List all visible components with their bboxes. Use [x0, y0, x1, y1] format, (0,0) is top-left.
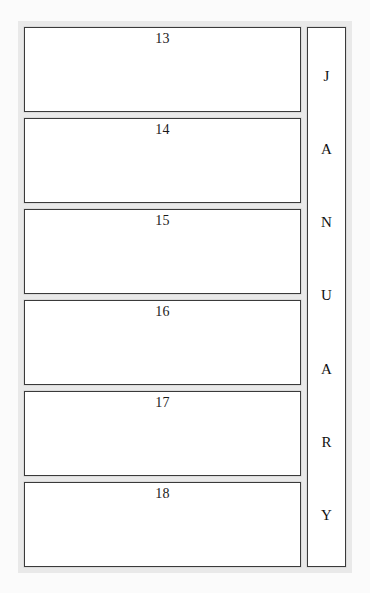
planner-page: 13 14 15 16 17 18	[18, 21, 352, 573]
day-number: 15	[25, 212, 300, 230]
day-number: 16	[25, 303, 300, 321]
day-writing-area[interactable]	[25, 141, 300, 202]
day-number: 18	[25, 485, 300, 503]
day-writing-area[interactable]	[25, 323, 300, 384]
day-number: 13	[25, 30, 300, 48]
day-number: 17	[25, 394, 300, 412]
day-cell-column: 13 14 15 16 17 18	[24, 27, 301, 567]
month-letter: J	[324, 69, 330, 84]
month-letter: R	[321, 435, 331, 450]
month-letter: U	[321, 288, 332, 303]
month-tab: J A N U A R Y	[307, 27, 346, 567]
month-letter: A	[321, 362, 332, 377]
day-cell[interactable]: 18	[24, 482, 301, 567]
day-writing-area[interactable]	[25, 414, 300, 475]
month-letter: A	[321, 142, 332, 157]
day-writing-area[interactable]	[25, 232, 300, 293]
day-writing-area[interactable]	[25, 505, 300, 566]
day-number: 14	[25, 121, 300, 139]
day-cell[interactable]: 13	[24, 27, 301, 112]
day-cell[interactable]: 14	[24, 118, 301, 203]
day-cell[interactable]: 16	[24, 300, 301, 385]
month-letter: Y	[321, 508, 332, 523]
day-cell[interactable]: 17	[24, 391, 301, 476]
planner-body: 13 14 15 16 17 18	[24, 27, 346, 567]
day-cell[interactable]: 15	[24, 209, 301, 294]
day-writing-area[interactable]	[25, 50, 300, 111]
month-letter: N	[321, 215, 332, 230]
